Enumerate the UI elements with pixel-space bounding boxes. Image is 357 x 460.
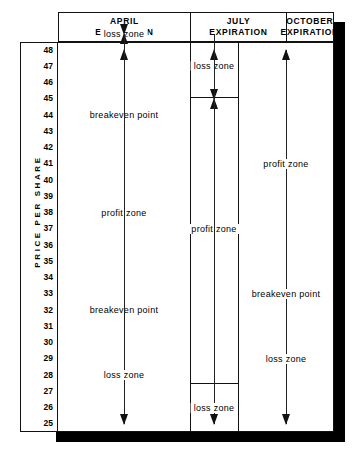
price-tick-41: 41: [29, 158, 53, 168]
july-loss-lower-label: loss zone: [191, 403, 238, 413]
october-full-arrow-stem: [286, 50, 287, 424]
price-tick-39: 39: [29, 191, 53, 201]
price-tick-43: 43: [29, 126, 53, 136]
price-tick-34: 34: [29, 272, 53, 282]
price-tick-31: 31: [29, 321, 53, 331]
price-tick-30: 30: [29, 337, 53, 347]
october-full-arrow-head-up: [282, 49, 290, 60]
price-tick-40: 40: [29, 175, 53, 185]
column-divider-april-july: [190, 42, 191, 432]
column-header-october-line2: EXPIRATION: [281, 27, 339, 38]
column-header-july-line1: JULY: [227, 16, 251, 27]
price-tick-48: 48: [29, 45, 53, 55]
price-tick-32: 32: [29, 305, 53, 315]
october-full-arrow-head-down: [282, 414, 290, 425]
price-tick-28: 28: [29, 370, 53, 380]
april-loss-lower-arrow-stem: [124, 34, 125, 424]
april-loss-lower-label: loss zone: [101, 370, 148, 380]
column-header-october: OCTOBER EXPIRATION: [286, 12, 335, 42]
october-loss-label: loss zone: [263, 354, 310, 364]
price-tick-list: 4847464544434241403938373635343332313029…: [20, 42, 57, 432]
price-tick-26: 26: [29, 402, 53, 412]
july-loss-lower-arrow-head-down: [210, 414, 218, 425]
price-tick-25: 25: [29, 418, 53, 428]
price-tick-35: 35: [29, 256, 53, 266]
panel-shadow-right: [334, 22, 345, 442]
price-tick-45: 45: [29, 93, 53, 103]
figure-canvas: APRIL EXPIRATION JULY EXPIRATION OCTOBER…: [0, 0, 357, 460]
price-tick-27: 27: [29, 386, 53, 396]
price-tick-47: 47: [29, 61, 53, 71]
column-header-july-line2: EXPIRATION: [209, 27, 267, 38]
july-loss-lower-arrow-stem: [214, 34, 215, 424]
price-tick-42: 42: [29, 142, 53, 152]
october-profit-label: profit zone: [260, 159, 311, 169]
october-breakeven-label: breakeven point: [249, 289, 324, 299]
column-divider-july-october: [238, 42, 239, 432]
price-tick-37: 37: [29, 223, 53, 233]
price-tick-38: 38: [29, 207, 53, 217]
price-tick-44: 44: [29, 110, 53, 120]
price-tick-46: 46: [29, 77, 53, 87]
price-tick-29: 29: [29, 353, 53, 363]
panel-shadow-bottom: [56, 431, 345, 442]
price-tick-36: 36: [29, 240, 53, 250]
column-header-july: JULY EXPIRATION: [190, 12, 288, 42]
price-tick-33: 33: [29, 288, 53, 298]
april-loss-lower-arrow-head-down: [120, 414, 128, 425]
price-scale: PRICE PER SHARE 484746454443424140393837…: [20, 42, 58, 432]
column-header-october-line1: OCTOBER: [286, 16, 333, 27]
